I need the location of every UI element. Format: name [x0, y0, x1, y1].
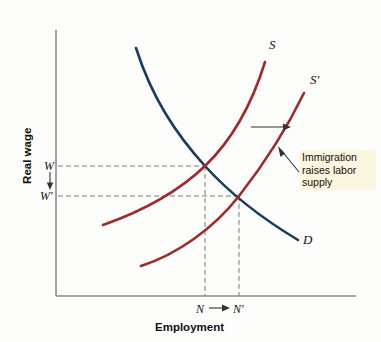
annotation-pointer-arrow — [278, 146, 299, 172]
annotation-immigration-callout: Immigration raises labor supply — [300, 150, 376, 190]
curve-label-supply-shifted: S′ — [310, 73, 319, 86]
employment-increase-arrow — [209, 305, 230, 312]
supply-shifted-curve — [141, 93, 304, 266]
tick-label-employment-final: N′ — [233, 303, 244, 315]
demand-curve — [136, 48, 298, 240]
curve-label-demand: D — [303, 233, 312, 246]
tick-label-employment-initial: N — [196, 303, 204, 315]
supply-shift-arrow — [251, 124, 291, 131]
labor-market-immigration-figure: S S′ D W W′ N N′ Real wage Employment Im… — [0, 0, 381, 342]
curve-label-supply: S — [269, 38, 276, 51]
tick-label-wage-final: W′ — [40, 190, 53, 202]
x-axis-title: Employment — [155, 322, 224, 334]
wage-decrease-arrow — [47, 172, 53, 190]
tick-label-wage-initial: W — [44, 160, 54, 172]
y-axis-title: Real wage — [22, 111, 34, 201]
